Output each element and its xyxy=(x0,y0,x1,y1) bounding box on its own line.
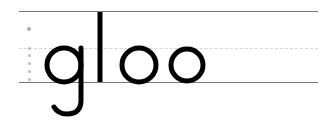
letter-o xyxy=(122,48,156,82)
practice-word-glyphs xyxy=(0,0,331,133)
letter-g xyxy=(47,48,81,114)
letter-o xyxy=(171,49,203,81)
handwriting-practice-sheet: gloo xyxy=(0,0,331,133)
